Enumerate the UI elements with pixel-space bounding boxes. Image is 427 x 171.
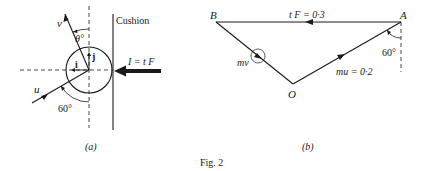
label-side-AB: t F = 0·3 xyxy=(289,9,325,20)
label-side-BO: mv xyxy=(237,57,249,68)
panel-b-label: (b) xyxy=(302,141,314,153)
label-sixty-a: 60° xyxy=(58,103,72,114)
figure-canvas: v θ° i j u 60° Cushion I = t F (a) B A O… xyxy=(0,0,427,171)
label-point-O: O xyxy=(288,88,296,100)
side-BO xyxy=(216,22,293,84)
velocity-u-arrowhead-icon xyxy=(41,94,48,100)
label-point-A: A xyxy=(399,9,407,21)
label-angle-A: 60° xyxy=(382,47,396,58)
impulse-arrowhead-icon xyxy=(114,66,126,77)
unit-j-arrowhead-icon xyxy=(87,52,91,56)
label-v: v xyxy=(57,17,62,29)
label-cushion: Cushion xyxy=(116,15,149,26)
label-theta: θ° xyxy=(75,33,84,44)
label-unit-i: i xyxy=(75,59,78,70)
label-unit-j: j xyxy=(91,51,95,62)
panel-a: v θ° i j u 60° Cushion I = t F (a) xyxy=(20,6,161,153)
side-OA-arrowhead-icon xyxy=(337,54,345,60)
figure-caption: Fig. 2 xyxy=(200,157,223,168)
velocity-u-arrow xyxy=(32,70,89,103)
panel-b: B A O t F = 0·3 mu = 0·2 mv 60° (b) xyxy=(210,9,407,153)
label-point-B: B xyxy=(210,9,217,21)
panel-a-label: (a) xyxy=(85,141,97,153)
label-u: u xyxy=(34,83,40,95)
label-impulse: I = t F xyxy=(127,56,155,67)
label-side-OA: mu = 0·2 xyxy=(336,66,372,77)
